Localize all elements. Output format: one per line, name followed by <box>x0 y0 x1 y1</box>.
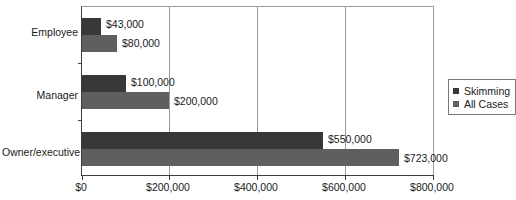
x-axis-label-200000: $200,000 <box>133 181 203 193</box>
plot-area: $43,000 $80,000 $100,000 $200,000 $550,0… <box>81 6 434 176</box>
x-axis-tick-0 <box>82 175 83 180</box>
data-label-manager-skimming: $100,000 <box>131 76 175 88</box>
data-label-manager-all-cases: $200,000 <box>174 95 218 107</box>
x-axis-tick-400000 <box>257 175 258 180</box>
x-axis-tick-600000 <box>345 175 346 180</box>
legend-swatch-icon <box>453 88 459 94</box>
data-label-employee-skimming: $43,000 <box>106 18 144 30</box>
bar-owner-executive-all-cases[interactable] <box>82 149 399 166</box>
category-label-text: Employee <box>2 26 78 38</box>
legend-item-all-cases[interactable]: All Cases <box>453 97 510 110</box>
category-label-text: Owner/executive <box>2 146 78 158</box>
legend: Skimming All Cases <box>448 79 516 115</box>
bar-owner-executive-skimming[interactable] <box>82 132 323 149</box>
data-label-employee-all-cases: $80,000 <box>122 37 160 49</box>
bar-employee-all-cases[interactable] <box>82 35 117 52</box>
x-axis-label-800000: $800,000 <box>397 181 467 193</box>
bar-employee-skimming[interactable] <box>82 18 101 35</box>
bar-manager-all-cases[interactable] <box>82 92 169 109</box>
x-axis-label-0: $0 <box>61 181 101 193</box>
data-label-owner-executive-skimming: $550,000 <box>328 133 372 145</box>
y-axis-tick-2 <box>78 120 82 121</box>
legend-item-label: All Cases <box>464 98 508 110</box>
x-axis-tick-800000 <box>433 175 434 180</box>
x-axis-tick-200000 <box>169 175 170 180</box>
x-axis-label-600000: $600,000 <box>309 181 379 193</box>
x-axis-label-400000: $400,000 <box>221 181 291 193</box>
legend-swatch-icon <box>453 101 459 107</box>
legend-item-skimming[interactable]: Skimming <box>453 84 510 97</box>
legend-item-label: Skimming <box>464 85 510 97</box>
bar-manager-skimming[interactable] <box>82 75 126 92</box>
category-label-text: Manager <box>2 89 78 101</box>
y-axis-tick-1 <box>78 63 82 64</box>
data-label-owner-executive-all-cases: $723,000 <box>404 152 448 164</box>
